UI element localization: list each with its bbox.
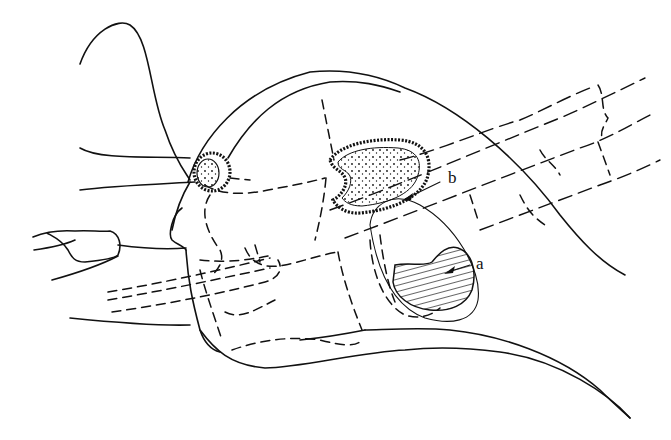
label-a: a [476, 254, 484, 274]
line-drawing [0, 0, 671, 440]
anatomical-diagram: b a [0, 0, 671, 440]
label-b: b [448, 168, 457, 188]
